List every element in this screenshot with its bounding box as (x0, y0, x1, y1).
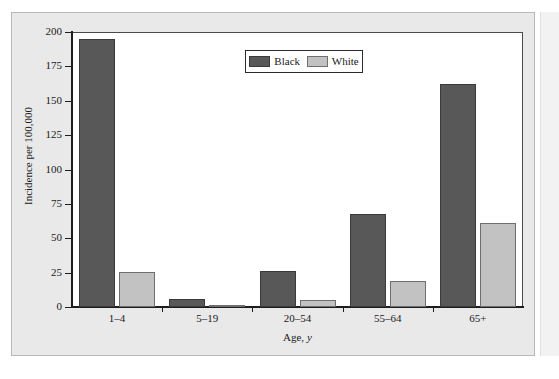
y-tick-mark (65, 273, 72, 274)
x-axis-label-italic: y (307, 331, 312, 343)
bar-black-4 (440, 84, 476, 307)
y-tick-mark (65, 170, 72, 171)
bar-black-1 (169, 299, 205, 307)
legend-swatch-white-icon (307, 56, 328, 67)
x-tick-label: 55–64 (343, 312, 433, 324)
bar-white-3 (390, 281, 426, 307)
legend: Black White (245, 50, 363, 73)
y-tick-label: 200 (20, 26, 62, 37)
x-tick-label: 5–19 (162, 312, 252, 324)
bar-white-2 (300, 300, 336, 307)
x-axis-label: Age,y (72, 331, 523, 343)
legend-label-white: White (332, 56, 359, 67)
y-tick-mark (65, 307, 72, 308)
figure: 0255075100125150175200 Incidence per 100… (0, 0, 559, 379)
y-tick-mark (65, 101, 72, 102)
bar-black-0 (79, 39, 115, 307)
y-tick-mark (65, 135, 72, 136)
legend-label-black: Black (274, 56, 300, 67)
legend-entry-black: Black (249, 56, 300, 67)
x-tick-mark (433, 307, 434, 312)
y-tick-label: 25 (20, 267, 62, 278)
x-axis-label-text: Age, (283, 331, 304, 343)
y-tick-mark (65, 204, 72, 205)
y-tick-label: 0 (20, 301, 62, 312)
bar-white-0 (119, 272, 155, 307)
x-tick-mark (343, 307, 344, 312)
x-tick-mark (162, 307, 163, 312)
bar-black-2 (260, 271, 296, 307)
page-margin-strip (540, 12, 559, 356)
legend-swatch-black-icon (249, 56, 270, 67)
x-tick-label: 20–54 (253, 312, 343, 324)
bar-white-1 (209, 305, 245, 307)
x-tick-mark (252, 307, 253, 312)
x-tick-label: 65+ (433, 312, 523, 324)
bar-black-3 (350, 214, 386, 308)
y-tick-mark (65, 238, 72, 239)
y-tick-mark (65, 66, 72, 67)
y-tick-mark (65, 32, 72, 33)
legend-entry-white: White (307, 56, 359, 67)
x-tick-label: 1–4 (72, 312, 162, 324)
y-axis-label: Incidence per 100,000 (22, 66, 34, 246)
bar-white-4 (480, 223, 516, 307)
